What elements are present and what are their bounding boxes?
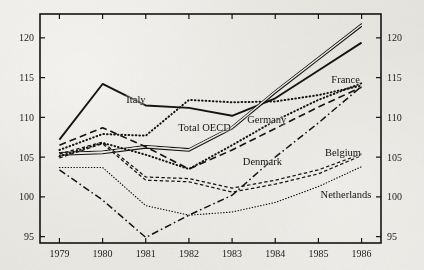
series-label-total-oecd: Total OECD [178, 122, 231, 133]
x-axis-tick-1986: 1986 [352, 248, 372, 259]
x-axis-tick-1983: 1983 [222, 248, 242, 259]
x-axis-tick-1981: 1981 [136, 248, 156, 259]
y-axis-tick-right-95: 95 [387, 231, 397, 242]
series-label-germany: Germany [247, 114, 286, 125]
series-label-denmark: Denmark [243, 156, 282, 167]
y-axis-tick-right-115: 115 [387, 72, 402, 83]
x-axis-tick-1984: 1984 [265, 248, 285, 259]
series-label-france: France [331, 74, 360, 85]
series-label-netherlands: Netherlands [321, 189, 372, 200]
y-axis-tick-left-100: 100 [19, 191, 34, 202]
series-line-germany [59, 24, 361, 156]
y-axis-tick-right-105: 105 [387, 152, 402, 163]
x-axis-tick-1979: 1979 [49, 248, 69, 259]
y-axis-tick-right-110: 110 [387, 112, 402, 123]
y-axis-tick-left-95: 95 [24, 231, 34, 242]
y-axis-tick-right-120: 120 [387, 32, 402, 43]
series-label-italy: Italy [126, 94, 145, 105]
series-line-unlabeled-dash-dot [59, 86, 361, 237]
y-axis-tick-left-120: 120 [19, 32, 34, 43]
y-axis-tick-left-110: 110 [19, 112, 34, 123]
y-axis-tick-right-100: 100 [387, 191, 402, 202]
chart-plot-area: 9595100100105105110110115115120120197919… [0, 0, 424, 270]
x-axis-tick-1985: 1985 [308, 248, 328, 259]
x-axis-tick-1982: 1982 [179, 248, 199, 259]
x-axis-tick-1980: 1980 [93, 248, 113, 259]
line-chart: 9595100100105105110110115115120120197919… [0, 0, 424, 270]
y-axis-tick-left-105: 105 [19, 152, 34, 163]
series-line-belgium-pair [59, 142, 361, 188]
y-axis-tick-left-115: 115 [19, 72, 34, 83]
series-label-belgium: Belgium [325, 147, 361, 158]
